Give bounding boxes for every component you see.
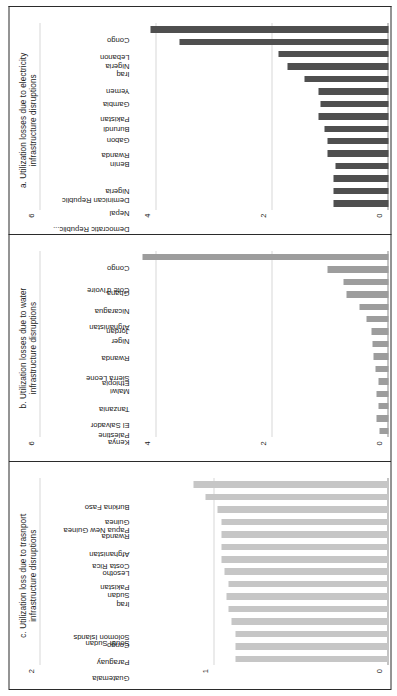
panel-water-gridlines-tick-label-2: 2 [259,437,268,445]
panel-electricity-bars [40,23,388,210]
bar-slot [40,491,388,503]
bar-slot [40,325,388,337]
bar-slot [40,615,388,627]
bar-slot [40,36,388,48]
bar-slot [40,553,388,565]
bar-water-congo [142,254,389,260]
bar-slot [40,578,388,590]
bar-water-afghanistan [359,304,388,310]
panel-electricity-gridlines-tick-label-2: 2 [259,210,268,218]
panel-water-bars [40,251,388,438]
bar-electricity-nepal [333,200,388,206]
bar-electricity-nigeria [278,51,388,57]
bar-slot [40,160,388,172]
bar-slot [40,123,388,135]
bar-water-cote-d-ivoire [327,266,388,272]
bar-slot [40,60,388,72]
bar-transport-pakistan [224,569,388,575]
bar-electricity-benin [327,150,388,156]
bar-slot [40,566,388,578]
panel-transport-title-line2: infrastructure disruptions [28,530,37,622]
bar-transport-sudan [228,581,388,587]
bar-slot [40,590,388,602]
panel-transport-plot-area: 012 [40,478,388,665]
panel-water-gridlines-tick-label-4: 4 [143,437,152,445]
panel-electricity-title-line2: infrastructure disruptions [28,74,37,166]
bar-slot [40,301,388,313]
bar-transport-guatemala [235,656,388,662]
panel-transport-title: c. Utilization loss due to trasnport inf… [9,462,40,689]
bar-transport-burkina-faso [193,481,388,487]
bar-water-ethiopia [375,366,388,372]
bar-slot [40,110,388,122]
bar-slot [40,425,388,437]
bar-slot [40,363,388,375]
panel-transport-gridlines-tick-label-1: 1 [201,665,210,673]
bar-slot [40,276,388,288]
bar-transport-iraq [226,593,388,599]
panel-transport-bars [40,478,388,665]
bar-transport-lesotho [221,556,388,562]
bar-electricity-yemen [304,76,388,82]
bar-slot [40,313,388,325]
panel-transport: c. Utilization loss due to trasnport inf… [8,461,391,690]
panel-transport-title-line1: c. Utilization loss due to trasnport [18,514,27,638]
bar-electricity-gabon [324,126,388,132]
bar-electricity-congo [150,26,388,32]
bar-water-el-salvador [378,403,388,409]
panel-electricity-title: a. Utilization losses due to electricity… [9,7,40,234]
panel-electricity-gridlines-tick-label-4: 4 [143,210,152,218]
bar-water-palestine [376,415,388,421]
bar-slot [40,251,388,263]
bar-slot [40,628,388,640]
bar-water-ghana [343,279,388,285]
bar-slot [40,478,388,490]
bar-slot [40,503,388,515]
bar-slot [40,197,388,209]
bar-slot [40,412,388,424]
bar-electricity-pakistan [320,101,388,107]
panel-water: b. Utilization losses due to water infra… [8,234,391,462]
panel-water-gridlines-tick-label-0: 0 [375,437,384,445]
bar-slot [40,147,388,159]
bar-slot [40,350,388,362]
panel-water-title-line2: infrastructure disruptions [28,302,37,394]
panel-electricity: a. Utilization losses due to electricity… [8,6,391,234]
bar-water-nicaragua [346,291,388,297]
bar-water-jordan [366,316,388,322]
bar-transport-rwanda [221,519,388,525]
bar-slot [40,73,388,85]
bar-slot [40,172,388,184]
bar-transport-congo [235,631,388,637]
category-label-nepal: Nepal [109,213,129,221]
bar-slot [40,135,388,147]
bar-slot [40,288,388,300]
bar-electricity-nigeria [333,175,388,181]
bar-slot [40,388,388,400]
bar-electricity-rwanda [327,138,388,144]
panel-water-title: b. Utilization losses due to water infra… [9,235,40,462]
panel-water-title-line1: b. Utilization losses due to water [18,288,27,409]
bar-slot [40,338,388,350]
bar-slot [40,85,388,97]
bar-slot [40,263,388,275]
bar-transport-guinea [217,506,388,512]
bar-slot [40,603,388,615]
panel-electricity-title-line1: a. Utilization losses due to electricity [18,53,27,189]
bar-water-niger [371,328,388,334]
bar-electricity-lebanon [179,39,388,45]
bar-transport-costa-rica [221,544,388,550]
bar-electricity-iraq [287,63,389,69]
panel-water-plot-area: 0246 [40,251,388,438]
bar-slot [40,640,388,652]
bar-slot [40,541,388,553]
bar-electricity-deminican-republic [335,163,388,169]
bar-slot [40,185,388,197]
bar-slot [40,375,388,387]
category-label-guatemala: Guatemala [92,677,129,685]
rotated-figure-wrapper: c. Utilization loss due to trasnport inf… [0,0,397,696]
bar-transport-paraguay [235,643,388,649]
category-label-kenya: Kenya [107,442,129,450]
panel-transport-gridlines-tick-label-0: 0 [375,665,384,673]
bar-transport-solomon-islands [228,606,388,612]
